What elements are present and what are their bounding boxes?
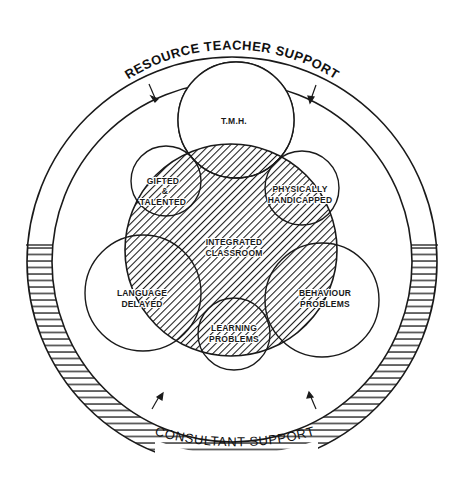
arrow-down-right-icon xyxy=(308,85,316,103)
diagram-canvas: RESOURCE TEACHER SUPPORT CONSULTANT SUPP… xyxy=(0,0,464,485)
arrow-down-left-icon xyxy=(149,84,158,102)
tmh-label: T.M.H. xyxy=(221,116,247,126)
svg-text:TALENTED: TALENTED xyxy=(140,197,186,207)
language-delayed-label: LANGUAGE DELAYED xyxy=(117,288,167,309)
svg-text:LEARNING: LEARNING xyxy=(211,323,257,333)
svg-text:PROBLEMS: PROBLEMS xyxy=(300,299,350,309)
integrated-classroom-label: INTEGRATED CLASSROOM xyxy=(205,237,262,258)
svg-text:PROBLEMS: PROBLEMS xyxy=(209,334,259,344)
physically-handicapped-label: PHYSICALLY HANDICAPPED xyxy=(268,184,333,205)
svg-text:&: & xyxy=(162,186,168,196)
svg-text:PHYSICALLY: PHYSICALLY xyxy=(272,184,327,194)
svg-text:BEHAVIOUR: BEHAVIOUR xyxy=(299,288,351,298)
learning-problems-label: LEARNING PROBLEMS xyxy=(209,323,259,344)
svg-text:INTEGRATED: INTEGRATED xyxy=(206,237,263,247)
svg-text:LANGUAGE: LANGUAGE xyxy=(117,288,167,298)
behaviour-problems-label: BEHAVIOUR PROBLEMS xyxy=(299,288,351,309)
svg-text:CLASSROOM: CLASSROOM xyxy=(205,248,262,258)
svg-text:GIFTED: GIFTED xyxy=(147,176,179,186)
svg-text:HANDICAPPED: HANDICAPPED xyxy=(268,195,333,205)
svg-text:DELAYED: DELAYED xyxy=(121,299,162,309)
support-model-diagram: RESOURCE TEACHER SUPPORT CONSULTANT SUPP… xyxy=(0,0,464,485)
